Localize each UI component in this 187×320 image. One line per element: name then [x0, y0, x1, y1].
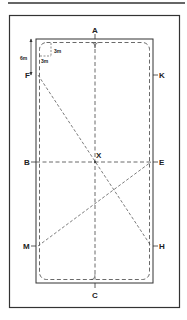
dim-arrow-up-icon — [30, 39, 33, 43]
marker-x: X — [96, 151, 102, 160]
dim-6m-label: 6m — [20, 55, 28, 61]
center-curve-top — [91, 43, 95, 49]
dim-3m-horizontal-label: 3m — [41, 58, 49, 64]
marker-e: E — [159, 158, 165, 167]
marker-f: F — [25, 71, 30, 80]
marker-k: K — [159, 71, 165, 80]
dim-arrow-down-icon — [30, 72, 33, 76]
marker-m: M — [23, 242, 30, 251]
dim-3m-vertical-label: 3m — [54, 48, 62, 54]
center-curve-top-right — [95, 43, 99, 49]
point-x — [94, 161, 96, 163]
marker-c: C — [92, 291, 98, 300]
marker-a: A — [92, 26, 98, 35]
marker-b: B — [24, 158, 30, 167]
diagonal-f-h — [38, 75, 151, 246]
diagonal-m-e — [38, 162, 151, 246]
arena-diagram: 6m 3m 3m A C F K B E M H X — [0, 0, 187, 320]
center-curve-bottom — [91, 274, 95, 280]
marker-h: H — [159, 242, 165, 251]
